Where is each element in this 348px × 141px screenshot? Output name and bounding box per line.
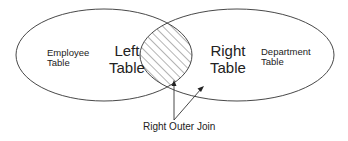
department-label-line2: Table xyxy=(261,57,311,67)
left-label-line1: Left xyxy=(109,43,145,60)
right-label-line1: Right xyxy=(210,43,246,60)
department-table-label: Department Table xyxy=(261,47,311,68)
right-label-line2: Table xyxy=(210,60,246,77)
venn-diagram xyxy=(0,0,348,141)
employee-table-label: Employee Table xyxy=(47,48,89,69)
employee-label-line2: Table xyxy=(47,58,89,68)
arrow-icon xyxy=(172,80,205,120)
right-outer-join-caption: Right Outer Join xyxy=(143,121,215,132)
left-label-line2: Table xyxy=(109,60,145,77)
left-table-label: Left Table xyxy=(109,43,145,76)
right-table-label: Right Table xyxy=(210,43,246,76)
